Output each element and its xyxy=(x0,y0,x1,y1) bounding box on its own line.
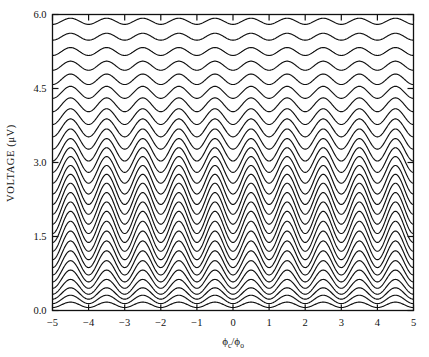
x-tick-label: 4 xyxy=(375,317,381,328)
x-tick-label: −2 xyxy=(155,317,166,328)
curve-path xyxy=(53,61,414,70)
x-tick-label: 5 xyxy=(411,317,416,328)
curve-path xyxy=(53,183,414,214)
chart-figure: −5−4−3−2−1012345 0.01.53.04.56.0 VOLTAGE… xyxy=(0,0,429,357)
x-tick-label: −5 xyxy=(47,317,58,328)
curve-path xyxy=(53,174,414,204)
curve-path xyxy=(53,221,414,251)
x-tick-label: 3 xyxy=(339,317,344,328)
y-axis-ticks xyxy=(53,15,414,311)
curve-path xyxy=(53,251,414,275)
y-tick-label: 4.5 xyxy=(33,83,46,94)
x-axis-tick-labels: −5−4−3−2−1012345 xyxy=(47,317,416,328)
curve-series-group xyxy=(53,18,414,307)
x-tick-label: −4 xyxy=(83,317,95,328)
curve-path xyxy=(53,288,414,299)
curve-path xyxy=(53,48,414,56)
voltage-flux-plot: −5−4−3−2−1012345 0.01.53.04.56.0 VOLTAGE… xyxy=(0,0,429,357)
x-axis-ticks xyxy=(53,15,414,311)
y-tick-label: 0.0 xyxy=(33,305,46,316)
curve-path xyxy=(53,165,414,194)
curve-path xyxy=(53,241,414,268)
x-tick-label: 1 xyxy=(266,317,271,328)
curve-path xyxy=(53,193,414,225)
x-tick-label: −3 xyxy=(119,317,130,328)
curve-path xyxy=(53,33,414,40)
curve-path xyxy=(53,86,414,98)
x-tick-label: 2 xyxy=(303,317,308,328)
x-axis-label: ϕc/ϕo xyxy=(222,335,244,350)
curve-path xyxy=(53,74,414,84)
y-tick-label: 3.0 xyxy=(33,157,46,168)
curve-path xyxy=(53,109,414,125)
x-label-slash: /ϕ xyxy=(231,335,240,347)
y-axis-label-text: VOLTAGE (μV) xyxy=(5,124,17,202)
x-tick-label: 0 xyxy=(230,317,235,328)
y-axis-tick-labels: 0.01.53.04.56.0 xyxy=(33,9,46,316)
x-label-sub-o: o xyxy=(240,341,244,350)
y-tick-label: 1.5 xyxy=(33,231,46,242)
curve-path xyxy=(53,231,414,260)
y-tick-label: 6.0 xyxy=(33,9,46,20)
curve-path xyxy=(53,202,414,234)
curve-path xyxy=(53,119,414,137)
x-axis-label-text: ϕc/ϕo xyxy=(222,335,244,350)
curve-path xyxy=(53,98,414,112)
plot-frame xyxy=(53,15,414,311)
y-axis-label: VOLTAGE (μV) xyxy=(5,124,17,202)
plot-border xyxy=(53,15,414,311)
curve-path xyxy=(53,211,414,242)
x-tick-label: −1 xyxy=(191,317,202,328)
curve-path xyxy=(53,139,414,162)
curve-path xyxy=(53,148,414,173)
curve-path xyxy=(53,261,414,282)
